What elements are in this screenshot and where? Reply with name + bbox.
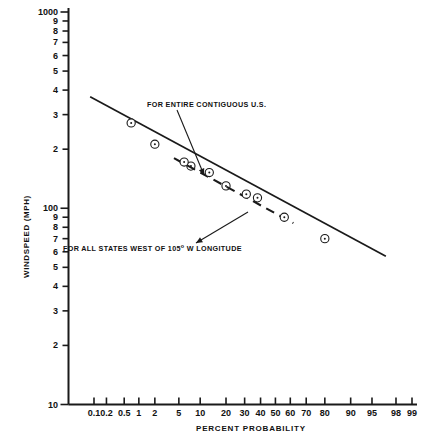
y-tick-label: 3 [20,306,58,316]
y-tick-label: 9 [20,16,58,26]
x-tick-label: 0.2 [100,408,113,418]
x-tick-label: 5 [176,408,181,418]
data-point-center-dot [256,197,258,199]
x-tick-label: 90 [346,408,356,418]
series-west-states [174,158,293,223]
y-tick-label: 2 [20,144,58,154]
x-tick-label: 50 [270,408,280,418]
annotation-entire-contiguous-us: FOR ENTIRE CONTIGUOUS U.S. [147,100,266,109]
data-point-center-dot [130,122,132,124]
y-tick-label: 5 [20,66,58,76]
data-point-center-dot [225,185,227,187]
x-tick-label: 0.5 [118,408,131,418]
data-point-center-dot [208,172,210,174]
windspeed-probability-chart: 10009876543210098765432100.10.20.5125102… [0,0,437,439]
x-tick-label: 98 [391,408,401,418]
y-tick-label: 3 [20,110,58,120]
data-point-center-dot [183,161,185,163]
x-tick-label: 99 [407,408,417,418]
data-point-center-dot [283,216,285,218]
series-contiguous-us [90,97,386,256]
x-tick-label: 2 [152,408,157,418]
x-tick-label: 0.1 [88,408,101,418]
y-tick-label: 6 [20,51,58,61]
annotation-states-west-105w: FOR ALL STATES WEST OF 105o W LONGITUDE [63,243,242,253]
axis-lines [69,8,418,405]
x-tick-label: 70 [301,408,311,418]
x-tick-label: 20 [221,408,231,418]
x-tick-label: 80 [320,408,330,418]
x-axis-ticks [94,398,412,405]
y-tick-label: 8 [20,26,58,36]
y-axis-ticks [61,12,69,405]
data-point-center-dot [245,193,247,195]
y-axis-title: WINDSPEED (MPH) [22,195,31,278]
data-point-center-dot [154,143,156,145]
series-line [174,158,293,223]
x-axis-title: PERCENT PROBABILITY [196,424,306,433]
annotation-leader-line [196,212,248,243]
y-tick-label: 7 [20,37,58,47]
x-tick-label: 1 [136,408,141,418]
data-point-center-dot [324,238,326,240]
x-tick-label: 30 [240,408,250,418]
y-tick-label: 4 [20,85,58,95]
y-tick-label: 4 [20,281,58,291]
x-tick-label: 60 [285,408,295,418]
y-tick-label: 10 [20,400,58,410]
x-tick-label: 40 [256,408,266,418]
chart-plot-area [0,0,437,439]
y-tick-label: 2 [20,340,58,350]
x-tick-label: 10 [195,408,205,418]
series-layer [90,97,386,256]
x-tick-label: 95 [367,408,377,418]
